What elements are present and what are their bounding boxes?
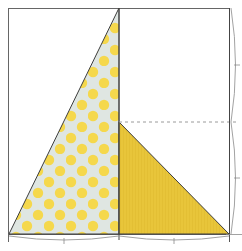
quilt-diagram bbox=[0, 0, 242, 251]
diagram-svg bbox=[0, 0, 242, 251]
